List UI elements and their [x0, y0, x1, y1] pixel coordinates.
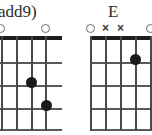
string-line-3	[120, 36, 122, 131]
string-line-2	[1, 36, 3, 131]
chord-name-label-left: add9)	[0, 1, 37, 22]
string-line-3	[16, 36, 18, 131]
chord-name-label-right: E	[108, 1, 118, 22]
string-line-5	[150, 36, 152, 131]
finger-dot	[41, 100, 52, 111]
fretboard-grid-right	[90, 36, 152, 132]
open-string-marker	[146, 24, 152, 33]
string-line-1	[90, 36, 92, 131]
string-line-4	[135, 36, 137, 131]
open-mute-marker-row-right: × ×	[0, 24, 152, 35]
chord-chart-canvas: add9) E × ×	[0, 0, 152, 135]
string-line-2	[105, 36, 107, 131]
finger-dot	[130, 54, 141, 65]
open-string-marker	[86, 24, 95, 33]
mute-string-marker: ×	[116, 24, 125, 33]
mute-string-marker: ×	[101, 24, 110, 33]
string-line-5	[45, 36, 47, 131]
finger-dot	[26, 77, 37, 88]
